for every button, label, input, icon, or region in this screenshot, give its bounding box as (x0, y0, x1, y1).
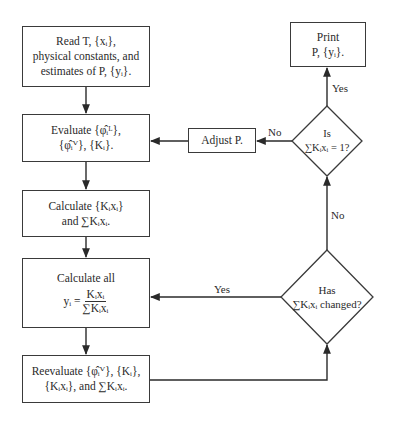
decision-is-one-line2: ∑Kᵢxᵢ = 1? (305, 141, 350, 155)
edge-label-changed-no: No (331, 209, 344, 221)
node-read-line2: physical constants, and (33, 49, 139, 64)
node-evaluate: Evaluate {φ̂ᵢᴸ}, {φ̂ᵢⱽ}, {Kᵢ}. (22, 114, 150, 162)
node-calc-y: Calculate all yᵢ = Kᵢxᵢ ∑Kᵢxᵢ (22, 258, 150, 328)
node-calc-y-formula: yᵢ = Kᵢxᵢ ∑Kᵢxᵢ (63, 288, 108, 315)
edge-label-is-one-no: No (268, 126, 281, 138)
node-evaluate-line1: Evaluate {φ̂ᵢᴸ}, (51, 123, 121, 138)
node-print-line2: P, {yᵢ}. (312, 45, 344, 60)
node-print-line1: Print (317, 30, 339, 45)
node-reevaluate-line2: {Kᵢxᵢ}, and ∑Kᵢxᵢ. (45, 379, 128, 394)
formula-numerator: Kᵢxᵢ (85, 288, 107, 302)
node-calc-y-line1: Calculate all (57, 271, 115, 286)
node-read-line1: Read T, {xᵢ}, (56, 34, 116, 49)
formula-lhs: yᵢ = (63, 294, 80, 309)
formula-denominator: ∑Kᵢxᵢ (82, 302, 108, 315)
node-evaluate-line2: {φ̂ᵢⱽ}, {Kᵢ}. (59, 138, 114, 153)
node-calc-kx-line1: Calculate {Kᵢxᵢ} (48, 199, 123, 214)
node-read: Read T, {xᵢ}, physical constants, and es… (22, 26, 150, 87)
decision-is-one-line1: Is (305, 127, 350, 141)
formula-fraction: Kᵢxᵢ ∑Kᵢxᵢ (82, 288, 108, 315)
edge-label-changed-yes: Yes (214, 283, 230, 295)
node-adjust: Adjust P. (188, 128, 256, 153)
node-adjust-line1: Adjust P. (201, 133, 243, 148)
decision-changed-line2: ∑Kᵢxᵢ changed? (292, 297, 361, 311)
decision-changed: Has ∑Kᵢxᵢ changed? (292, 283, 361, 311)
node-print: Print P, {yᵢ}. (290, 22, 366, 67)
node-reevaluate: Reevaluate {φ̂ᵢⱽ}, {Kᵢ}, {Kᵢxᵢ}, and ∑Kᵢ… (22, 355, 150, 403)
node-read-line3: estimates of P, {yᵢ}. (41, 64, 132, 79)
edge-label-is-one-yes: Yes (332, 82, 348, 94)
node-calc-kx-line2: and ∑Kᵢxᵢ. (62, 214, 110, 229)
node-reevaluate-line1: Reevaluate {φ̂ᵢⱽ}, {Kᵢ}, (32, 364, 141, 379)
decision-changed-line1: Has (292, 283, 361, 297)
node-calc-kx: Calculate {Kᵢxᵢ} and ∑Kᵢxᵢ. (22, 190, 150, 237)
decision-is-one: Is ∑Kᵢxᵢ = 1? (305, 127, 350, 155)
